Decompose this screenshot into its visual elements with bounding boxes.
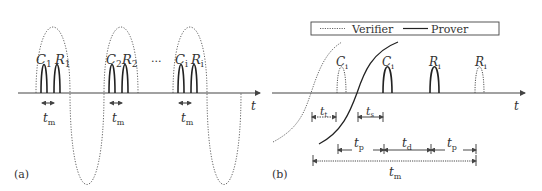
label-c2: C2 — [106, 52, 122, 69]
panel-a: t C1 R1 C2 R2 ... Ci Ri tm tm tm (a) — [14, 27, 260, 185]
verifier-wave — [273, 42, 342, 142]
axis-label-t-b: t — [514, 99, 519, 113]
sine-wave — [36, 27, 241, 185]
label-ri-prover: Ri — [428, 55, 441, 71]
panel-a-label: (a) — [14, 168, 29, 181]
label-t-s: ts — [366, 105, 374, 119]
label-tm-i: tm — [181, 111, 194, 127]
label-ci: Ci — [175, 52, 188, 69]
legend-prover-label: Prover — [431, 23, 469, 36]
label-t-p2: tp — [447, 136, 457, 152]
label-ci-verifier: Ci — [336, 55, 348, 71]
axis-label-t-a: t — [251, 99, 256, 113]
label-t-p1: tp — [354, 136, 364, 152]
label-ri: Ri — [190, 52, 204, 69]
label-c1: C1 — [36, 52, 52, 69]
panel-b-label: (b) — [272, 168, 288, 181]
label-ri-verifier: Ri — [474, 55, 487, 71]
ellipsis: ... — [151, 52, 162, 65]
panel-b: Verifier Prover t Ci Ci Ri Ri — [272, 22, 525, 181]
diagram: t C1 R1 C2 R2 ... Ci Ri tm tm tm (a) Ver… — [0, 0, 542, 191]
pulse-ri-verifier — [475, 67, 484, 93]
label-t-d: td — [402, 136, 412, 152]
label-t-t: tt — [320, 105, 327, 119]
label-r1: R1 — [54, 52, 71, 69]
label-tm-1: tm — [43, 111, 56, 127]
label-tm-2: tm — [112, 111, 125, 127]
label-ci-prover: Ci — [382, 55, 394, 71]
legend-verifier-label: Verifier — [351, 23, 394, 36]
label-t-m: tm — [389, 165, 402, 181]
